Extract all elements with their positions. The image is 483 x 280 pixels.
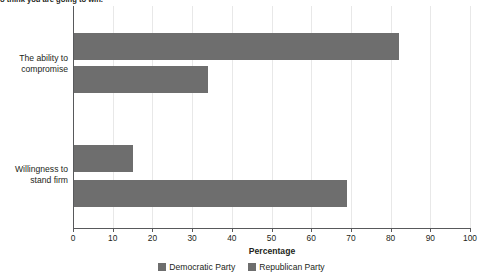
legend-label: Democratic Party [169,262,235,272]
x-tick-label: 50 [252,233,292,244]
x-tick-mark [113,228,114,232]
gridline [470,6,471,228]
legend-swatch-icon [248,263,256,271]
x-tick-mark [470,228,471,232]
x-tick-mark [311,228,312,232]
x-tick-label: 70 [331,233,371,244]
gridline [430,6,431,228]
x-tick-mark [351,228,352,232]
x-tick-mark [430,228,431,232]
x-tick-mark [192,228,193,232]
chart-legend: Democratic PartyRepublican Party [0,262,483,272]
x-tick-label: 0 [53,233,93,244]
y-axis-category-label: Willingness tostand firm [0,164,68,186]
x-tick-label: 100 [450,233,483,244]
bar [74,145,133,172]
y-axis-category-label-line: The ability to [19,53,68,63]
bar [74,180,347,207]
x-axis-title: Percentage [73,246,471,257]
x-tick-label: 80 [371,233,411,244]
y-axis-category-label-line: Willingness to [15,164,68,174]
x-tick-label: 90 [410,233,450,244]
y-axis-category-label-line: stand firm [30,175,68,185]
x-tick-label: 30 [172,233,212,244]
x-tick-label: 40 [212,233,252,244]
bar [74,66,208,93]
x-tick-label: 20 [132,233,172,244]
x-tick-mark [391,228,392,232]
bar-chart: 0102030405060708090100 The ability tocom… [0,0,483,280]
x-tick-label: 60 [291,233,331,244]
x-tick-mark [272,228,273,232]
bar [74,33,399,60]
legend-entry: Republican Party [248,262,324,272]
y-axis-line [73,6,74,228]
legend-entry: Democratic Party [158,262,235,272]
x-tick-mark [73,228,74,232]
legend-label: Republican Party [259,262,324,272]
y-axis-category-label-line: compromise [21,64,68,74]
y-axis-category-label: The ability tocompromise [0,53,68,75]
x-tick-mark [232,228,233,232]
legend-swatch-icon [158,263,166,271]
x-tick-label: 10 [93,233,133,244]
x-tick-mark [152,228,153,232]
